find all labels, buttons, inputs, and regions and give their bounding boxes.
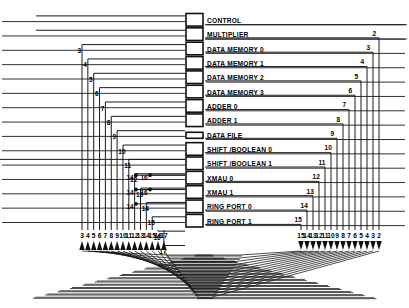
- right-cascade-number-12: 12: [313, 173, 321, 180]
- right-cascade-number-14: 14: [301, 202, 309, 209]
- bottom-left-port-arrow-13[interactable]: [138, 241, 143, 250]
- crossbar-fan-mesh: [33, 251, 379, 299]
- bottom-right-port-number-2: 2: [377, 232, 381, 239]
- right-cascade-number-5: 5: [355, 73, 359, 80]
- right-cascade-number-3: 3: [367, 44, 371, 51]
- left-cascade-number-15: 15: [148, 219, 156, 226]
- bottom-right-port-arrow-13[interactable]: [310, 241, 315, 250]
- module-label-adder-1: ADDER 1: [207, 117, 238, 124]
- bottom-right-port-arrow-6[interactable]: [352, 241, 357, 250]
- bottom-right-port-arrow-9[interactable]: [334, 241, 339, 250]
- left-cascade-number-6: 6: [95, 90, 99, 97]
- module-box-data-file[interactable]: [186, 132, 203, 138]
- module-box-adder-0[interactable]: [186, 100, 203, 113]
- fan-line-left-13: [158, 251, 363, 295]
- bottom-left-port-arrow-11[interactable]: [126, 241, 131, 250]
- module-label-column: CONTROLMULTIPLIERDATA MEMORY 0DATA MEMOR…: [206, 17, 405, 226]
- module-label-control: CONTROL: [207, 17, 241, 24]
- right-cascade-number-7: 7: [343, 101, 347, 108]
- bottom-left-port-number-4: 4: [86, 232, 90, 239]
- bottom-left-port-arrow-5[interactable]: [91, 241, 96, 250]
- bottom-left-port-arrow-6[interactable]: [97, 241, 102, 250]
- junction-dot-4: [134, 202, 138, 206]
- right-cascade-number-4: 4: [361, 58, 365, 65]
- module-box-data-memory-2[interactable]: [186, 71, 203, 84]
- module-label-data-memory-0: DATA MEMORY 0: [207, 46, 264, 53]
- module-box-shift-boolean-1[interactable]: [186, 157, 203, 170]
- bottom-right-port-arrow-14[interactable]: [304, 241, 309, 250]
- bottom-left-port-number-6: 6: [98, 232, 102, 239]
- left-cascade-number-4: 4: [83, 61, 87, 68]
- inner-junction-number-1: 16: [141, 174, 149, 181]
- bottom-left-port-arrow-14[interactable]: [144, 241, 149, 250]
- module-box-control[interactable]: [186, 14, 203, 27]
- bottom-left-port-number-8: 8: [109, 232, 113, 239]
- module-box-shift-boolean-0[interactable]: [186, 143, 203, 156]
- right-cascade-number-9: 9: [331, 130, 335, 137]
- module-box-multiplier[interactable]: [186, 28, 203, 41]
- right-cascade-number-2: 2: [373, 30, 377, 37]
- right-cascade-number-11: 11: [319, 159, 326, 166]
- right-cascade-number-6: 6: [349, 87, 353, 94]
- module-box-data-memory-1[interactable]: [186, 57, 203, 70]
- bottom-right-port-arrow-10[interactable]: [328, 241, 333, 250]
- bottom-left-port-arrow-15[interactable]: [150, 241, 155, 250]
- bottom-right-port-number-8: 8: [341, 232, 345, 239]
- right-cascade-number-13: 13: [307, 188, 315, 195]
- bottom-right-port-number-9: 9: [335, 232, 339, 239]
- bottom-left-port-arrow-12[interactable]: [132, 241, 137, 250]
- right-cascade-number-15: 15: [295, 216, 303, 223]
- bottom-right-port-arrow-5[interactable]: [358, 241, 363, 250]
- left-bus-lines: [0, 16, 185, 246]
- bottom-left-port-number-17: 17: [160, 232, 168, 239]
- bottom-left-port-arrow-4[interactable]: [85, 241, 90, 250]
- bottom-right-port-number-5: 5: [359, 232, 363, 239]
- module-label-data-memory-3: DATA MEMORY 3: [207, 89, 264, 96]
- bottom-right-port-arrow-15[interactable]: [298, 241, 303, 250]
- right-cascade-number-10: 10: [325, 144, 333, 151]
- bottom-right-port-arrow-2[interactable]: [376, 241, 381, 250]
- module-box-data-memory-0[interactable]: [186, 42, 203, 55]
- module-label-data-memory-1: DATA MEMORY 1: [207, 60, 264, 67]
- bottom-right-port-arrow-3[interactable]: [370, 241, 375, 250]
- module-label-multiplier: MULTIPLIER: [207, 31, 249, 38]
- bottom-right-port-arrow-11[interactable]: [322, 241, 327, 250]
- bottom-right-port-arrow-12[interactable]: [316, 241, 321, 250]
- bottom-left-port-arrow-9[interactable]: [114, 241, 119, 250]
- left-cascade-number-3: 3: [77, 47, 81, 54]
- bottom-port-row: 3456789101112131415161715141312111098765…: [79, 232, 381, 250]
- bottom-left-port-arrow-3[interactable]: [79, 241, 84, 250]
- bottom-right-port-number-3: 3: [371, 232, 375, 239]
- bus-interconnect-diagram: 1416141614 CONTROLMULTIPLIERDATA MEMORY …: [0, 0, 409, 308]
- bottom-left-port-arrow-16[interactable]: [155, 241, 160, 250]
- right-cascade-number-8: 8: [337, 116, 341, 123]
- module-box-ring-port-1[interactable]: [186, 214, 203, 227]
- module-box-column: [186, 14, 203, 228]
- module-label-data-memory-2: DATA MEMORY 2: [207, 74, 264, 81]
- module-box-xmau-1[interactable]: [186, 186, 203, 199]
- junction-dot-3: [148, 188, 152, 192]
- module-box-data-memory-3[interactable]: [186, 85, 203, 98]
- bottom-left-port-number-5: 5: [92, 232, 96, 239]
- right-bus-lines: [205, 25, 407, 230]
- module-label-xmau-0: XMAU 0: [207, 175, 233, 182]
- bottom-right-port-number-7: 7: [347, 232, 351, 239]
- bottom-right-port-arrow-4[interactable]: [364, 241, 369, 250]
- left-cascade-number-7: 7: [101, 105, 105, 112]
- bottom-left-port-arrow-10[interactable]: [120, 241, 125, 250]
- bottom-right-port-arrow-7[interactable]: [346, 241, 351, 250]
- bottom-right-port-arrow-8[interactable]: [340, 241, 345, 250]
- module-label-shift-boolean-1: SHIFT /BOOLEAN 1: [207, 160, 272, 167]
- bottom-left-port-arrow-7[interactable]: [103, 241, 108, 250]
- left-cascade-number-14: 14: [142, 205, 150, 212]
- diagram-canvas: 1416141614 CONTROLMULTIPLIERDATA MEMORY …: [0, 0, 409, 308]
- inner-junction-number-2: 14: [127, 189, 135, 196]
- module-box-ring-port-0[interactable]: [186, 200, 203, 213]
- left-cascade-number-11: 11: [124, 162, 131, 169]
- module-box-xmau-0[interactable]: [186, 171, 203, 184]
- junction-dot-1: [148, 173, 152, 177]
- bottom-left-port-arrow-8[interactable]: [109, 241, 114, 250]
- module-box-adder-1[interactable]: [186, 114, 203, 127]
- bottom-left-port-number-7: 7: [104, 232, 108, 239]
- left-cascade-number-13: 13: [136, 191, 144, 198]
